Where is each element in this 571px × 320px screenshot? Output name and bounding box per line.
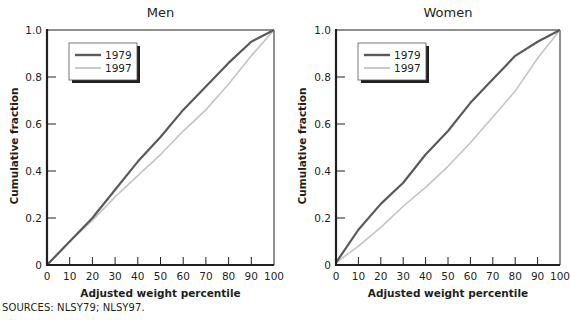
plot-area-women: 010203040506070809010000.20.40.60.81.019… <box>0 0 571 290</box>
legend-women: 19791997 <box>358 43 429 83</box>
x-tick-label: 10 <box>352 270 365 282</box>
legend-label-1979: 1979 <box>394 49 421 61</box>
y-tick-label: 0.4 <box>314 165 331 177</box>
y-tick-label: 0 <box>324 259 331 271</box>
y-tick-label: 0.2 <box>314 212 331 224</box>
x-tick-label: 30 <box>397 270 410 282</box>
x-tick-label: 100 <box>550 270 570 282</box>
x-tick-label: 40 <box>419 270 432 282</box>
y-tick-label: 1.0 <box>314 24 331 36</box>
x-tick-label: 60 <box>464 270 477 282</box>
y-tick-label: 0.6 <box>314 118 331 130</box>
x-tick-label: 0 <box>333 270 340 282</box>
x-tick-label: 70 <box>486 270 499 282</box>
legend-label-1997: 1997 <box>394 62 421 74</box>
x-tick-label: 20 <box>374 270 387 282</box>
chart-panel-women: Women Cumulative fraction Adjusted weigh… <box>0 0 571 290</box>
x-tick-label: 80 <box>509 270 522 282</box>
x-tick-label: 90 <box>531 270 544 282</box>
y-tick-label: 0.8 <box>314 71 331 83</box>
sources-note: SOURCES: NLSY79; NLSY97. <box>2 302 145 313</box>
x-tick-label: 50 <box>441 270 454 282</box>
